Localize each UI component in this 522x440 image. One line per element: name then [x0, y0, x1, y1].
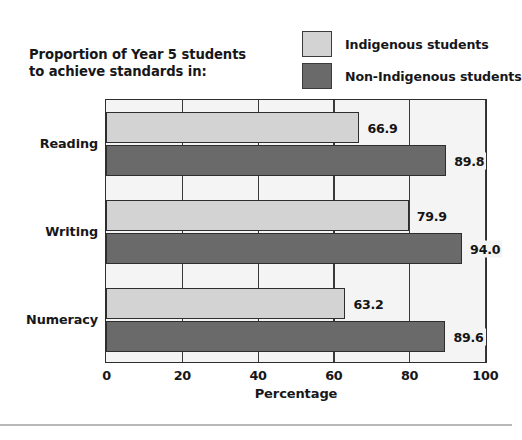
- x-axis-ticks: 020406080100: [105, 368, 487, 386]
- legend-item-indigenous: Indigenous students: [302, 28, 508, 60]
- x-axis-title: Percentage: [105, 386, 487, 401]
- x-tick-40: 40: [249, 368, 266, 383]
- category-label-writing: Writing: [45, 224, 98, 239]
- x-tick-60: 60: [325, 368, 342, 383]
- gridline-100: [485, 100, 486, 362]
- category-axis: ReadingWritingNumeracy: [0, 99, 98, 363]
- legend-label-non-indigenous: Non-Indigenous students: [345, 69, 522, 84]
- legend-label-indigenous: Indigenous students: [345, 37, 489, 52]
- footer-divider: [0, 424, 512, 426]
- legend-item-non-indigenous: Non-Indigenous students: [302, 60, 508, 92]
- bar-value-writing-non-indigenous: 94.0: [466, 240, 502, 257]
- plot-area: 66.989.879.994.063.289.6: [105, 99, 487, 363]
- category-label-numeracy: Numeracy: [26, 312, 98, 327]
- plot-inner: 66.989.879.994.063.289.6: [106, 100, 486, 362]
- category-label-reading: Reading: [40, 136, 98, 151]
- bar-value-writing-indigenous: 79.9: [413, 207, 449, 224]
- x-tick-100: 100: [472, 368, 498, 383]
- bar-reading-indigenous: [106, 112, 359, 143]
- bar-value-reading-non-indigenous: 89.8: [450, 152, 486, 169]
- bar-reading-non-indigenous: [106, 145, 446, 176]
- chart-title: Proportion of Year 5 students to achieve…: [29, 46, 259, 80]
- bar-numeracy-non-indigenous: [106, 321, 445, 352]
- x-tick-80: 80: [401, 368, 418, 383]
- bar-value-numeracy-indigenous: 63.2: [349, 295, 385, 312]
- chart-legend: Indigenous students Non-Indigenous stude…: [302, 28, 508, 92]
- legend-swatch-indigenous: [302, 31, 332, 57]
- x-tick-20: 20: [174, 368, 191, 383]
- bar-writing-non-indigenous: [106, 233, 462, 264]
- bar-value-reading-indigenous: 66.9: [363, 119, 399, 136]
- x-tick-0: 0: [102, 368, 111, 383]
- legend-swatch-non-indigenous: [302, 63, 332, 89]
- bar-writing-indigenous: [106, 200, 409, 231]
- bar-value-numeracy-non-indigenous: 89.6: [449, 328, 485, 345]
- bar-numeracy-indigenous: [106, 288, 345, 319]
